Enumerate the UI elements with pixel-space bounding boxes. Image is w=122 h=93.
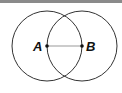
diagram-canvas: A B xyxy=(0,0,122,93)
label-a: A xyxy=(32,39,42,54)
point-b xyxy=(80,44,84,48)
point-a xyxy=(45,44,49,48)
label-b: B xyxy=(86,39,95,54)
